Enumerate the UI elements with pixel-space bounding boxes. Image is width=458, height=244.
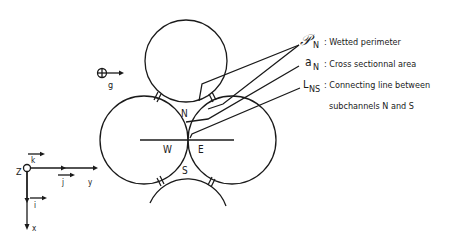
j-arrow-icon <box>61 166 66 171</box>
legend-sub-l: NS <box>309 84 320 94</box>
j-vec-arrow-icon <box>70 173 75 177</box>
leader-lns <box>190 88 300 138</box>
gravity-arrow-icon <box>119 71 124 76</box>
i-vec-arrow-icon <box>42 196 47 200</box>
spacer-top-left <box>154 92 161 102</box>
legend: 𝒫 N : Wetted perimeter a N : Cross secti… <box>300 31 430 111</box>
axis-z-label: Z <box>16 167 22 177</box>
axis-i-label: i <box>34 201 36 210</box>
axis-y-label: y <box>88 178 93 187</box>
rod-bottom <box>150 179 226 206</box>
rod-top <box>145 20 227 102</box>
legend-text-p: : Wetted perimeter <box>324 37 402 47</box>
leader-wetted-perimeter-2 <box>208 45 299 109</box>
legend-symbol-a: a <box>305 55 312 69</box>
axis-x-label: x <box>32 224 37 233</box>
legend-sub-p: N <box>313 40 319 50</box>
label-s: S <box>182 165 188 176</box>
legend-text-a: : Cross sectionnal area <box>324 59 416 69</box>
y-arrow-icon <box>93 166 98 171</box>
axis-j-label: j <box>61 178 64 187</box>
i-arrow-icon <box>25 198 30 203</box>
leader-area <box>186 66 299 122</box>
axis-k-label: k <box>31 156 36 165</box>
subchannel-diagram: N W E S g Z k j y i x 𝒫 N : Wetted perim… <box>0 0 458 244</box>
label-w: W <box>163 144 172 155</box>
gravity-label: g <box>108 80 113 90</box>
leader-wetted-perimeter <box>199 45 299 101</box>
legend-text-l2: subchannels N and S <box>329 101 414 111</box>
origin-z-icon <box>24 165 31 172</box>
label-n: N <box>181 108 188 119</box>
legend-text-l: : Connecting line between <box>324 80 430 90</box>
legend-sub-a: N <box>313 62 319 72</box>
k-arrow-icon <box>40 152 45 156</box>
x-arrow-icon <box>25 224 30 230</box>
label-e: E <box>198 144 204 155</box>
